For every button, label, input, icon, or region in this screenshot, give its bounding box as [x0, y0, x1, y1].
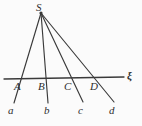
label-ray-d-lower: d [109, 105, 115, 116]
label-axis-xi: ξ [127, 70, 132, 81]
geometry-figure: S ξ A B C D a b c d [0, 0, 142, 126]
label-intersection-c-upper: C [64, 81, 71, 92]
ray-d-line [41, 13, 114, 102]
label-ray-c-lower: c [78, 105, 83, 116]
label-ray-b-lower: b [44, 105, 50, 116]
label-ray-a-lower: a [8, 105, 14, 116]
label-intersection-b-upper: B [38, 81, 45, 92]
label-intersection-a-upper: A [14, 81, 21, 92]
label-apex-s: S [36, 2, 42, 13]
label-intersection-d-upper: D [90, 81, 98, 92]
figure-canvas [0, 0, 142, 126]
